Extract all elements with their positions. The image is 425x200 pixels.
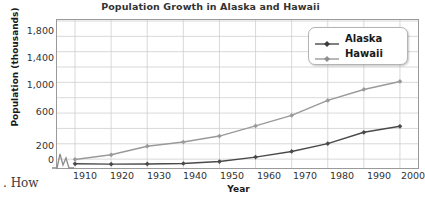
data-point-hawaii <box>398 79 403 84</box>
series-lines <box>73 79 403 166</box>
legend-label-hawaii: Hawaii <box>345 49 383 59</box>
legend-item-hawaii: Hawaii <box>314 46 402 61</box>
data-point-alaska <box>398 124 403 129</box>
legend-item-alaska: Alaska <box>314 31 402 46</box>
axis-break-icon <box>50 146 76 170</box>
x-tick-label: 1970 <box>293 170 317 181</box>
data-point-hawaii <box>361 87 366 92</box>
y-tick-label: 1,800 <box>2 25 54 36</box>
chart-legend: Alaska Hawaii <box>308 27 408 65</box>
y-tick-label: 200 <box>2 140 54 151</box>
data-point-hawaii <box>325 98 330 103</box>
data-point-hawaii <box>145 144 150 149</box>
y-tick-label: 0 <box>2 154 54 165</box>
series-line-alaska <box>75 126 400 164</box>
legend-label-alaska: Alaska <box>345 34 382 44</box>
chart-title: Population Growth in Alaska and Hawaii <box>0 1 421 12</box>
y-tick-label: 600 <box>2 106 54 117</box>
data-point-hawaii <box>109 152 114 157</box>
x-tick-label: 1960 <box>257 170 281 181</box>
page-bleed-text: . How <box>3 176 39 190</box>
data-point-alaska <box>181 161 186 166</box>
y-tick-label: 1,400 <box>2 52 54 63</box>
data-point-hawaii <box>217 134 222 139</box>
x-tick-label: 1950 <box>220 170 244 181</box>
data-point-hawaii <box>289 113 294 118</box>
data-point-alaska <box>109 162 114 167</box>
legend-swatch-alaska <box>314 34 340 44</box>
x-tick-label: 1940 <box>183 170 207 181</box>
x-tick-label: 1980 <box>330 170 354 181</box>
data-point-alaska <box>361 130 366 135</box>
data-point-alaska <box>289 149 294 154</box>
data-point-alaska <box>325 141 330 146</box>
data-point-alaska <box>217 159 222 164</box>
x-axis-label: Year <box>56 184 421 194</box>
data-point-alaska <box>145 162 150 167</box>
y-tick-label: 1,000 <box>2 79 54 90</box>
data-point-hawaii <box>253 124 258 129</box>
x-tick-label: 1920 <box>110 170 134 181</box>
series-line-hawaii <box>75 81 400 159</box>
x-tick-label: 1990 <box>367 170 391 181</box>
x-tick-label: 1910 <box>73 170 97 181</box>
x-axis-ticks: 1910 1920 1930 1940 1950 1960 1970 1980 … <box>56 170 419 184</box>
y-axis-ticks: 1,800 1,400 1,000 600 200 0 <box>0 19 54 169</box>
x-tick-label: 1930 <box>147 170 171 181</box>
legend-swatch-hawaii <box>314 49 340 59</box>
x-tick-label: 2000 <box>401 170 425 181</box>
